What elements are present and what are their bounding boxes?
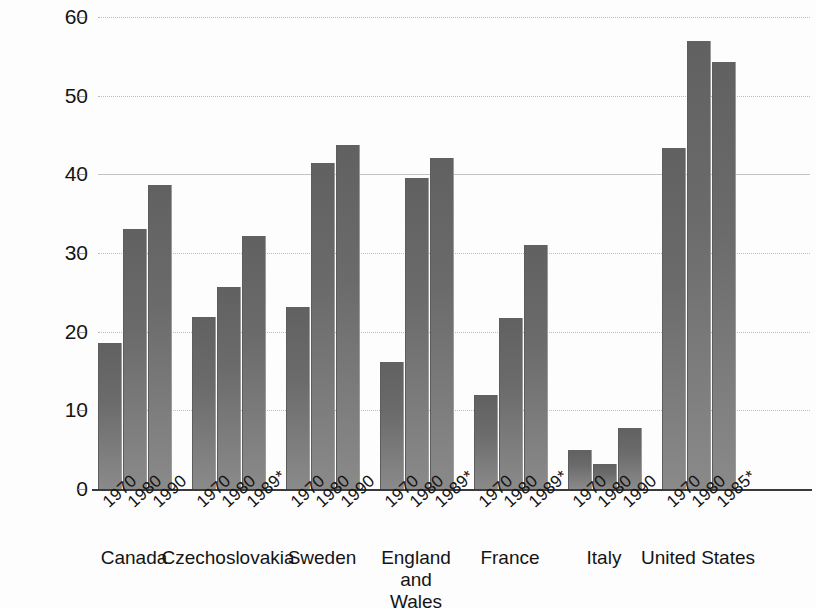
country-label-line: United States [608,547,788,569]
y-tick-mark-40 [78,174,85,175]
y-axis-tick-labels: 0102030405060 [24,0,88,608]
y-tick-mark-60 [78,17,85,18]
bar [123,229,147,489]
country-label-line: and [326,569,506,591]
country-label: United States [608,547,788,569]
bar [217,287,241,489]
bar [242,236,266,489]
bar [499,318,523,489]
plot-area [98,17,810,489]
bar [474,395,498,489]
divorce-rate-bar-chart: Divorces per 100 marriages 0102030405060… [0,0,816,608]
bar [687,41,711,489]
gridline-60 [98,17,810,19]
bar [380,362,404,489]
y-tick-mark-10 [78,410,85,411]
bar [98,343,122,489]
y-tick-mark-30 [78,253,85,254]
bar [192,317,216,489]
bar [311,163,335,489]
bar [712,62,736,489]
bar [430,158,454,489]
country-label-line: Wales [326,591,506,608]
y-tick-mark-50 [78,96,85,97]
y-tick-mark-20 [78,332,85,333]
bar [405,178,429,489]
bar [524,245,548,489]
y-tick-mark-0 [78,489,85,490]
bar [662,148,686,489]
bar [148,185,172,489]
bar [286,307,310,489]
bar [336,145,360,489]
